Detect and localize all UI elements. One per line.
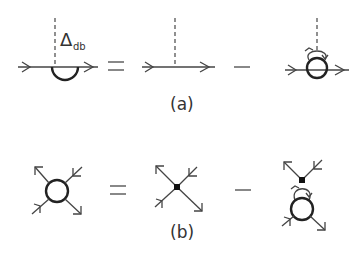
delta-subscript: db [73,41,86,52]
leg-lower-right [177,187,202,211]
panel-a-label: (a) [170,94,194,114]
arrow-head-icon [291,186,299,189]
dot-vertex [299,177,305,183]
equals-sign [110,186,126,194]
leg-upper-left [156,166,177,187]
feynman-diagram-canvas: Δ db (a) [0,0,363,259]
panel-b: (b) [32,160,325,242]
arrow-head-icon [189,168,197,176]
panel-a-middle-term [142,18,215,72]
leg-lower-left [155,187,177,207]
arrow-head-icon [322,55,328,59]
leg-lower-right [310,216,325,230]
leg-upper-left [35,167,49,183]
circle-bubble [307,58,327,78]
dot-vertex [174,184,180,190]
circle-vertex [291,198,313,220]
circle-vertex [46,180,68,202]
panel-a-lhs-term: Δ db [18,18,98,80]
leg-lower-right [65,199,81,214]
delta-label: Δ [60,29,73,50]
arrow-head-icon [305,48,313,51]
semicircle-bubble [52,67,78,80]
panel-b-middle-term [155,166,202,211]
panel-b-label: (b) [170,222,194,242]
arrow-head-icon [314,161,322,169]
panel-b-rhs-term [282,160,325,230]
panel-b-lhs-term [32,167,82,214]
panel-a: Δ db (a) [18,18,349,114]
equals-sign [108,62,124,70]
arrow-head-icon [306,193,312,197]
leg-lower-left [282,216,294,226]
panel-a-rhs-term [285,18,349,78]
